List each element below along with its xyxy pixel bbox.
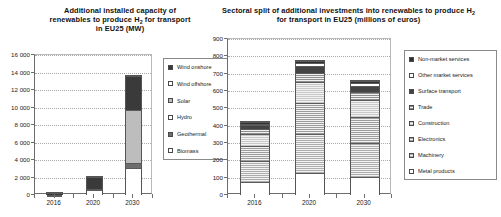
legend-label: Electronics bbox=[418, 136, 445, 142]
bar-segment-metal-products bbox=[296, 173, 324, 196]
legend-label: Metal products bbox=[418, 168, 455, 174]
bar-segment-construction bbox=[351, 100, 379, 117]
legend-label: Other market services bbox=[418, 72, 473, 78]
legend-label: Machinery bbox=[418, 152, 444, 158]
legend-swatch-icon bbox=[409, 89, 414, 94]
x-axis-tick-mark bbox=[54, 194, 55, 198]
bar-segment-surface-transport bbox=[296, 66, 324, 74]
legend-swatch-icon bbox=[409, 57, 414, 62]
bar-segment-solar bbox=[47, 195, 62, 196]
legend-item-electronics[interactable]: Electronics bbox=[409, 136, 492, 142]
legend-item-other-market-services[interactable]: Other market services bbox=[409, 72, 492, 78]
legend-label: Trade bbox=[418, 104, 432, 110]
legend-swatch-icon bbox=[168, 65, 173, 70]
legend-item-metal-products[interactable]: Metal products bbox=[409, 168, 492, 174]
y-axis-tick-label: 600 bbox=[213, 87, 223, 94]
legend-swatch-icon bbox=[168, 81, 173, 86]
x-axis-tick-mark bbox=[391, 194, 392, 198]
bar-segment-wind-onshore bbox=[87, 177, 102, 189]
y-axis-tick-label: 700 bbox=[213, 69, 223, 76]
x-axis-tick-label: 2030 bbox=[125, 199, 139, 206]
bar-segment-wind-onshore bbox=[126, 76, 141, 110]
bar-segment-machinery bbox=[241, 161, 269, 182]
y-axis-tick-label: 300 bbox=[213, 139, 223, 146]
bar-segment-trade bbox=[351, 92, 379, 100]
legend-label: Hydro bbox=[177, 114, 192, 120]
bar-segment-other-market-services bbox=[296, 63, 324, 66]
x-axis-tick-label: 2030 bbox=[357, 199, 371, 206]
bar-segment-biomass bbox=[87, 190, 102, 196]
legend-swatch-icon bbox=[409, 73, 414, 78]
chart-capacity-plot-area bbox=[34, 54, 152, 194]
x-axis-tick-mark bbox=[254, 194, 255, 198]
bar-segment-machinery bbox=[296, 134, 324, 174]
bar-2030 bbox=[350, 80, 380, 195]
chart-investments-plot-wrap: 0100200300400500600700800900 20162020203… bbox=[196, 28, 501, 217]
legend-item-construction[interactable]: Construction bbox=[409, 120, 492, 126]
legend-item-non-market-services[interactable]: Non-market services bbox=[409, 56, 492, 62]
bar-segment-electronics bbox=[351, 117, 379, 143]
legend-swatch-icon bbox=[168, 132, 173, 137]
bar-2030 bbox=[125, 75, 142, 195]
chart-investments-title-line-2: for transport in EU25 (millions of euros… bbox=[196, 15, 501, 24]
gridline bbox=[228, 39, 390, 40]
y-axis-tick-label: 100 bbox=[213, 173, 223, 180]
x-axis-tick-mark bbox=[34, 194, 35, 198]
x-axis-tick-mark bbox=[113, 194, 114, 198]
x-axis-tick-mark bbox=[282, 194, 283, 198]
legend-label: Solar bbox=[177, 98, 190, 104]
legend-label: Non-market services bbox=[418, 56, 469, 62]
bar-segment-metal-products bbox=[241, 182, 269, 196]
bar-segment-other-market-services bbox=[241, 124, 269, 126]
x-axis-tick-mark bbox=[132, 194, 133, 198]
legend-item-trade[interactable]: Trade bbox=[409, 104, 492, 110]
legend-item-machinery[interactable]: Machinery bbox=[409, 152, 492, 158]
bar-segment-metal-products bbox=[351, 177, 379, 196]
y-axis-tick-label: 16 000 bbox=[11, 51, 30, 58]
gridline bbox=[35, 73, 151, 74]
chart-investments-title: Sectoral split of additional investments… bbox=[196, 6, 501, 24]
chart-investments-plot-area bbox=[227, 38, 391, 194]
bar-segment-wind-onshore bbox=[47, 193, 62, 195]
y-axis-tick-label: 4 000 bbox=[15, 156, 30, 163]
bar-segment-surface-transport bbox=[241, 125, 269, 129]
bar-segment-machinery bbox=[351, 143, 379, 177]
bar-2016 bbox=[240, 121, 270, 195]
bar-segment-solar bbox=[126, 110, 141, 163]
x-axis-tick-mark bbox=[152, 194, 153, 198]
y-axis-tick-label: 8 000 bbox=[15, 121, 30, 128]
legend-label: Construction bbox=[418, 120, 449, 126]
legend-swatch-icon bbox=[409, 169, 414, 174]
legend-swatch-icon bbox=[409, 121, 414, 126]
legend-item-surface-transport[interactable]: Surface transport bbox=[409, 88, 492, 94]
legend-swatch-icon bbox=[409, 105, 414, 110]
bar-segment-trade bbox=[296, 73, 324, 82]
x-axis-tick-mark bbox=[336, 194, 337, 198]
gridline bbox=[35, 55, 151, 56]
x-axis-tick-mark bbox=[227, 194, 228, 198]
x-axis-tick-label: 2020 bbox=[302, 199, 316, 206]
figure-pair-container: Additional installed capacity of renewab… bbox=[0, 0, 501, 217]
y-axis-tick-label: 800 bbox=[213, 52, 223, 59]
bar-segment-surface-transport bbox=[351, 86, 379, 93]
bar-2020 bbox=[295, 60, 325, 195]
chart-investments-legend: Non-market servicesOther market services… bbox=[404, 50, 497, 180]
y-axis-tick-label: 400 bbox=[213, 121, 223, 128]
gridline bbox=[228, 56, 390, 57]
y-axis-tick-label: 14 000 bbox=[11, 68, 30, 75]
bar-segment-other-market-services bbox=[351, 83, 379, 85]
legend-label: Surface transport bbox=[418, 88, 461, 94]
legend-swatch-icon bbox=[168, 98, 173, 103]
chart-investments-title-line-1: Sectoral split of additional investments… bbox=[196, 6, 501, 15]
x-axis-tick-mark bbox=[309, 194, 310, 198]
bar-segment-geothermal bbox=[126, 163, 141, 168]
bar-segment-electronics bbox=[241, 146, 269, 162]
bar-segment-biomass bbox=[126, 168, 141, 196]
bar-2020 bbox=[86, 176, 103, 195]
chart-investments: Sectoral split of additional investments… bbox=[196, 0, 501, 217]
bar-segment-non-market-services bbox=[241, 122, 269, 123]
bar-segment-trade bbox=[241, 129, 269, 134]
bar-segment-solar bbox=[87, 189, 102, 190]
y-axis-tick-label: 500 bbox=[213, 104, 223, 111]
y-axis-tick-label: 12 000 bbox=[11, 86, 30, 93]
